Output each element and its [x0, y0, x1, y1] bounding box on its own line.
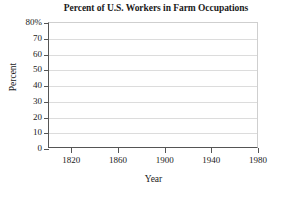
y-axis-tick-labels: 01020304050607080%: [0, 22, 42, 148]
gridline: [49, 86, 257, 87]
x-axis-tick: [118, 148, 119, 153]
y-axis-tick-label: 30: [0, 97, 42, 106]
x-axis-tick: [211, 148, 212, 153]
y-axis-tick-label: 0: [0, 144, 42, 153]
y-axis-tick: [44, 118, 49, 119]
x-axis-title: Year: [48, 174, 259, 185]
gridlines: [49, 23, 257, 147]
y-axis-tick-label: 40: [0, 81, 42, 90]
y-axis-tick-label: 70: [0, 34, 42, 43]
x-axis-tick-label: 1860: [98, 155, 138, 165]
y-axis-tick: [44, 39, 49, 40]
x-axis-tick-label: 1980: [238, 155, 278, 165]
gridline: [49, 70, 257, 71]
plot-area: [48, 22, 258, 148]
gridline: [49, 39, 257, 40]
y-axis-tick: [44, 70, 49, 71]
y-axis-tick-label: 20: [0, 113, 42, 122]
x-axis-tick-labels: 18201860190019401980: [48, 155, 259, 167]
x-axis-tick-label: 1940: [191, 155, 231, 165]
y-axis-tick: [44, 86, 49, 87]
x-axis-tick-label: 1900: [145, 155, 185, 165]
y-axis-tick-label: 80%: [0, 18, 42, 27]
x-axis-tick: [71, 148, 72, 153]
gridline: [49, 118, 257, 119]
y-axis-tick: [44, 23, 49, 24]
gridline: [49, 55, 257, 56]
gridline: [49, 102, 257, 103]
y-axis-tick: [44, 102, 49, 103]
x-axis-tick-label: 1820: [51, 155, 91, 165]
chart-figure: Percent of U.S. Workers in Farm Occupati…: [0, 0, 281, 199]
gridline: [49, 133, 257, 134]
x-axis-tick: [258, 148, 259, 153]
x-axis-tick: [165, 148, 166, 153]
chart-title: Percent of U.S. Workers in Farm Occupati…: [36, 3, 276, 14]
y-axis-tick: [44, 133, 49, 134]
x-axis-ticks: [48, 148, 259, 154]
y-axis-tick-label: 50: [0, 65, 42, 74]
y-axis-tick-label: 10: [0, 128, 42, 137]
y-axis-tick-label: 60: [0, 50, 42, 59]
y-axis-tick: [44, 55, 49, 56]
